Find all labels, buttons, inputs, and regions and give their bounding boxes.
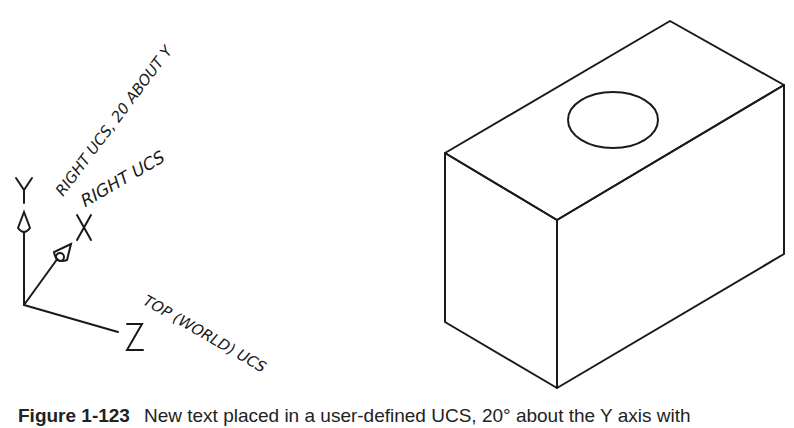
block-top-face — [445, 21, 784, 220]
caption-label: Figure 1-123 — [18, 405, 130, 426]
block-left-face — [445, 153, 557, 388]
block-hole — [568, 92, 658, 148]
block-right-face — [557, 85, 784, 388]
ucs-icon — [18, 212, 118, 332]
figure-caption: Figure 1-123New text placed in a user-de… — [18, 404, 691, 428]
top-world-ucs-label: TOP (WORLD) UCS — [138, 292, 271, 376]
z-axis-label — [127, 324, 143, 350]
x-axis-line — [24, 258, 58, 305]
x-axis-label — [77, 215, 91, 240]
caption-text: New text placed in a user-defined UCS, 2… — [144, 405, 691, 426]
y-axis-label — [16, 178, 32, 203]
y-axis-arrow-icon — [18, 212, 30, 232]
z-axis-line — [24, 305, 118, 332]
isometric-block — [445, 21, 784, 388]
